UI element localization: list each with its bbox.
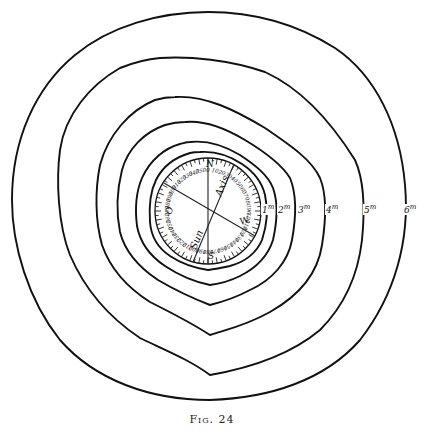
contour-distance-labels: 1m2m3m4m5m6m [261,203,417,215]
north-label: N [205,159,215,169]
figure-caption: Fig. 24 [0,413,424,426]
south-label: S [208,251,214,261]
graduated-dial: 0102030405060708090100110120130140150160… [155,158,261,264]
contour-diagram: 0102030405060708090100110120130140150160… [0,0,424,433]
